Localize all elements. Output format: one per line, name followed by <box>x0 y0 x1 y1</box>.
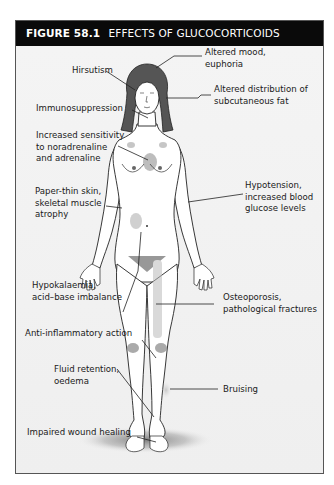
leader-altered-mood <box>156 56 202 68</box>
heart-shade <box>143 153 157 171</box>
figure-header: FIGURE 58.1 EFFECTS OF GLUCOCORTICOIDS <box>16 21 323 46</box>
figure-title: EFFECTS OF GLUCOCORTICOIDS <box>109 27 280 39</box>
right-hand <box>194 264 214 290</box>
label-hypotension: Hypotension, increased blood glucose lev… <box>245 180 313 215</box>
figure-number: FIGURE 58.1 <box>26 27 100 39</box>
label-fluid-retention: Fluid retention, oedema <box>54 364 119 387</box>
label-immunosuppression: Immunosuppression <box>36 103 123 115</box>
leader-altered-fat <box>166 95 211 98</box>
figure-panel: FIGURE 58.1 EFFECTS OF GLUCOCORTICOIDS <box>15 20 324 474</box>
label-impaired-wound: Impaired wound healing <box>27 427 131 439</box>
face <box>135 82 159 114</box>
illustration-canvas: Altered mood, euphoria Hirsutism Altered… <box>16 46 323 474</box>
label-osteoporosis: Osteoporosis, pathological fractures <box>223 292 317 315</box>
label-hypokalaemia: Hypokalaemia, acid–base imbalance <box>32 280 122 303</box>
right-foot <box>150 436 168 452</box>
leader-hypotension <box>188 194 243 202</box>
label-anti-inflammatory: Anti-inflammatory action <box>25 328 132 340</box>
label-bruising: Bruising <box>223 384 258 396</box>
label-altered-fat: Altered distribution of subcutaneous fat <box>214 84 308 107</box>
label-increased-sensitivity: Increased sensitivity to noradrenaline a… <box>36 130 124 165</box>
label-altered-mood: Altered mood, euphoria <box>205 47 266 70</box>
label-hirsutism: Hirsutism <box>72 65 113 77</box>
label-paper-thin-skin: Paper-thin skin, skeletal muscle atrophy <box>35 186 102 221</box>
